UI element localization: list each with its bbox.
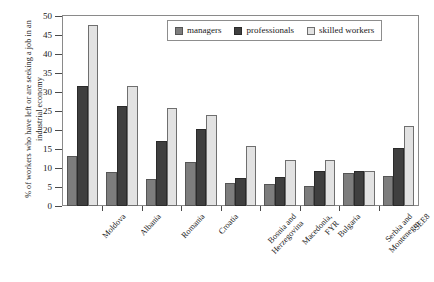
x-axis-label: SEE8 [412, 212, 432, 232]
bars-layer [63, 16, 418, 206]
bar-skilled-workers-bulgaria [325, 160, 336, 206]
bar-managers-croatia [185, 162, 196, 206]
x-axis-label: Albania [139, 212, 164, 238]
y-axis-tick [55, 111, 62, 112]
bar-group [106, 16, 138, 206]
y-axis-tick-label: 10 [28, 164, 52, 173]
y-axis-tick-label: 20 [28, 126, 52, 135]
x-axis-tick [221, 206, 222, 211]
y-axis-tick [55, 35, 62, 36]
y-axis-tick [55, 149, 62, 150]
bar-group [146, 16, 178, 206]
bar-group [67, 16, 99, 206]
y-axis-tick [55, 168, 62, 169]
y-axis-tick [55, 187, 62, 188]
bar-skilled-workers-bosnia-and-herzegovina [246, 146, 257, 206]
x-axis-label: Croatia [217, 212, 241, 236]
legend-item-skilled-workers[interactable]: skilled workers [307, 26, 374, 35]
y-axis-tick [55, 130, 62, 131]
bar-managers-macedonia-fyr [264, 184, 275, 206]
bar-group [383, 16, 415, 206]
legend-swatch-icon [307, 27, 315, 35]
x-axis-tick [339, 206, 340, 211]
bar-skilled-workers-macedonia-fyr [285, 160, 296, 206]
bar-skilled-workers-croatia [206, 115, 217, 206]
legend-swatch-icon [234, 27, 242, 35]
bar-professionals-bosnia-and-herzegovina [235, 178, 246, 206]
bar-skilled-workers-albania [127, 86, 138, 206]
legend-label: managers [187, 26, 221, 35]
y-axis-tick-label: 5 [28, 183, 52, 192]
bar-professionals-croatia [196, 129, 207, 206]
y-axis-tick [55, 92, 62, 93]
x-axis-label: Romania [179, 212, 206, 240]
y-axis-tick [55, 54, 62, 55]
x-axis-tick [181, 206, 182, 211]
bar-managers-bulgaria [304, 186, 315, 206]
y-axis-tick [55, 16, 62, 17]
x-axis-tick [260, 206, 261, 211]
bar-managers-serbia-and-montenegro [343, 173, 354, 206]
x-axis-label: Serbia and Montenegro [380, 212, 422, 255]
y-axis-tick-label: 35 [28, 69, 52, 78]
bar-skilled-workers-serbia-and-montenegro [364, 171, 375, 206]
x-axis-label: Bulgaria [336, 212, 363, 239]
bar-group [264, 16, 296, 206]
bar-skilled-workers-see8 [404, 126, 415, 206]
bar-group [225, 16, 257, 206]
bar-professionals-serbia-and-montenegro [354, 171, 365, 206]
bar-professionals-moldova [77, 86, 88, 206]
bar-group [185, 16, 217, 206]
bar-managers-romania [146, 179, 157, 206]
bar-managers-moldova [67, 156, 78, 206]
bar-managers-albania [106, 172, 117, 206]
legend-item-professionals[interactable]: professionals [234, 26, 294, 35]
y-axis-tick-label: 15 [28, 145, 52, 154]
bar-skilled-workers-moldova [88, 25, 99, 206]
x-axis-tick [300, 206, 301, 211]
x-axis-tick [142, 206, 143, 211]
chart-legend: managersprofessionalsskilled workers [167, 20, 382, 41]
legend-swatch-icon [175, 27, 183, 35]
x-axis-label: Bosnia and Herzegovina [262, 212, 305, 256]
bar-chart: % of workers who have left or are seekin… [0, 0, 434, 282]
bar-professionals-macedonia-fyr [275, 177, 286, 206]
bar-skilled-workers-romania [167, 108, 178, 206]
bar-professionals-see8 [393, 148, 404, 206]
x-axis-label: Macedonia, FYR [300, 212, 341, 254]
bar-managers-bosnia-and-herzegovina [225, 183, 236, 206]
x-axis-label: Moldova [100, 212, 127, 240]
bar-professionals-romania [156, 141, 167, 206]
y-axis-tick-label: 50 [28, 12, 52, 21]
y-axis-tick [55, 73, 62, 74]
y-axis-tick-label: 40 [28, 50, 52, 59]
legend-label: skilled workers [319, 26, 374, 35]
bar-managers-see8 [383, 176, 394, 206]
y-axis-tick-label: 25 [28, 107, 52, 116]
x-axis-tick [102, 206, 103, 211]
x-axis-tick [379, 206, 380, 211]
legend-item-managers[interactable]: managers [175, 26, 221, 35]
y-axis-title-container: % of workers who have left or are seekin… [0, 0, 30, 215]
bar-professionals-bulgaria [314, 171, 325, 206]
bar-professionals-albania [117, 106, 128, 206]
legend-label: professionals [246, 26, 294, 35]
y-axis-tick-label: 0 [28, 202, 52, 211]
y-axis-tick [55, 206, 62, 207]
bar-group [343, 16, 375, 206]
y-axis-tick-label: 45 [28, 31, 52, 40]
y-axis-tick-label: 30 [28, 88, 52, 97]
bar-group [304, 16, 336, 206]
